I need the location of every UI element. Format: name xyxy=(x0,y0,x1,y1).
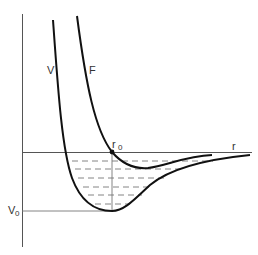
f-curve-label: F xyxy=(89,64,96,76)
potential-energy-diagram: V F r r 0 V 0 xyxy=(0,0,258,255)
r0-subscript: 0 xyxy=(118,143,123,152)
r0-label: r xyxy=(112,138,116,150)
v-curve-label: V xyxy=(47,64,55,76)
r-axis-label: r xyxy=(232,140,236,152)
equilibrium-point xyxy=(110,150,115,155)
v0-subscript: 0 xyxy=(15,209,20,218)
f-curve xyxy=(77,16,212,168)
